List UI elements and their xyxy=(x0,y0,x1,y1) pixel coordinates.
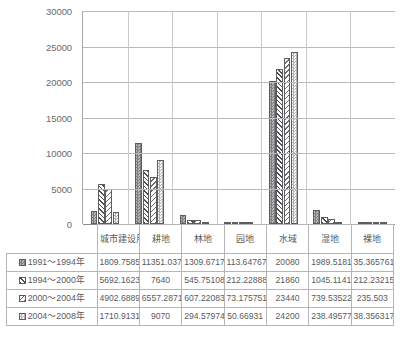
category-separator xyxy=(172,11,173,224)
bar xyxy=(105,189,112,224)
table-cell: 235.503 xyxy=(351,290,393,308)
category-separator xyxy=(128,11,129,224)
table-cell: 6557.2871 xyxy=(139,290,181,308)
table-cell: 739.53522 xyxy=(309,290,351,308)
table-cell: 294.57974 xyxy=(182,308,224,326)
legend-label: 1991～1994年 xyxy=(28,257,85,267)
table-cell: 4902.6889 xyxy=(97,290,139,308)
bar xyxy=(135,143,142,224)
table-cell: 212.23215 xyxy=(351,272,393,290)
legend-label: 1994～2000年 xyxy=(28,275,85,285)
gridline xyxy=(83,82,395,83)
data-table: 城市建设用地耕地林地园地水域湿地裸地 1991～1994年1809.758511… xyxy=(6,224,394,326)
table-cell: 24200 xyxy=(266,308,308,326)
table-column-header: 耕地 xyxy=(139,225,181,254)
y-axis-tick-label: 10000 xyxy=(46,148,72,159)
bar xyxy=(150,177,157,224)
bar xyxy=(180,215,187,224)
legend-label: 2004～2008年 xyxy=(28,311,85,321)
table-cell: 1045.1141 xyxy=(309,272,351,290)
y-axis-tick-label: 20000 xyxy=(46,77,72,88)
table-column-header: 水域 xyxy=(266,225,308,254)
table-row: 1994～2000年5692.16237640545.75108212.2288… xyxy=(7,272,394,290)
legend-swatch-icon xyxy=(19,277,26,284)
bar xyxy=(321,217,328,224)
gridline xyxy=(83,11,395,12)
plot-container: 050001000015000200002500030000 xyxy=(0,0,400,246)
table-cell: 1989.5181 xyxy=(309,254,351,272)
gridline xyxy=(83,153,395,154)
table-head: 城市建设用地耕地林地园地水域湿地裸地 xyxy=(7,225,394,254)
legend-entry: 1991～1994年 xyxy=(7,254,98,272)
bar xyxy=(291,52,298,224)
table-cell: 607.22083 xyxy=(182,290,224,308)
legend-swatch-icon xyxy=(19,259,26,266)
table-corner-cell xyxy=(7,225,98,254)
table-column-header: 裸地 xyxy=(351,225,393,254)
bar xyxy=(91,211,98,224)
table-cell: 50.66931 xyxy=(224,308,266,326)
legend-entry: 1994～2000年 xyxy=(7,272,98,290)
bar xyxy=(113,212,120,224)
table-cell: 1710.9131 xyxy=(97,308,139,326)
category-separator xyxy=(217,11,218,224)
table-cell: 1309.6717 xyxy=(182,254,224,272)
y-axis-tick-label: 15000 xyxy=(46,112,72,123)
table-cell: 238.49577 xyxy=(309,308,351,326)
plot-area xyxy=(82,11,394,224)
y-axis-tick-label: 5000 xyxy=(51,183,72,194)
bar xyxy=(157,160,164,224)
table-cell: 545.75108 xyxy=(182,272,224,290)
table-cell: 113.64767 xyxy=(224,254,266,272)
table-cell: 1809.7585 xyxy=(97,254,139,272)
table-row: 1991～1994年1809.758511351.0371309.6717113… xyxy=(7,254,394,272)
table-column-header: 园地 xyxy=(224,225,266,254)
category-separator xyxy=(261,11,262,224)
category-separator xyxy=(350,11,351,224)
y-axis-tick-label: 25000 xyxy=(46,41,72,52)
table-cell: 5692.1623 xyxy=(97,272,139,290)
bar xyxy=(98,184,105,224)
table-cell: 35.365761 xyxy=(351,254,393,272)
table-cell: 23440 xyxy=(266,290,308,308)
table-column-header: 城市建设用地 xyxy=(97,225,139,254)
gridline xyxy=(83,47,395,48)
category-separator xyxy=(306,11,307,224)
table-row: 2004～2008年1710.91319070294.5797450.66931… xyxy=(7,308,394,326)
y-axis: 050001000015000200002500030000 xyxy=(0,0,78,246)
bar xyxy=(276,69,283,224)
legend-label: 2000～2004年 xyxy=(28,293,85,303)
gridline xyxy=(83,118,395,119)
legend-swatch-icon xyxy=(19,313,26,320)
y-axis-tick-label: 30000 xyxy=(46,6,72,17)
gridline xyxy=(83,189,395,190)
table-header-row: 城市建设用地耕地林地园地水域湿地裸地 xyxy=(7,225,394,254)
table-row: 2000～2004年4902.68896557.2871607.2208373.… xyxy=(7,290,394,308)
table-cell: 38.356317 xyxy=(351,308,393,326)
table-cell: 7640 xyxy=(139,272,181,290)
table-cell: 11351.037 xyxy=(139,254,181,272)
table-cell: 212.22888 xyxy=(224,272,266,290)
table-column-header: 湿地 xyxy=(309,225,351,254)
bar xyxy=(313,210,320,224)
table-column-header: 林地 xyxy=(182,225,224,254)
legend-entry: 2004～2008年 xyxy=(7,308,98,326)
table-cell: 9070 xyxy=(139,308,181,326)
table-body: 1991～1994年1809.758511351.0371309.6717113… xyxy=(7,254,394,326)
legend-entry: 2000～2004年 xyxy=(7,290,98,308)
legend-swatch-icon xyxy=(19,295,26,302)
table-cell: 73.175751 xyxy=(224,290,266,308)
chart-figure: 050001000015000200002500030000 城市建设用地耕地林… xyxy=(0,0,400,344)
table-cell: 20080 xyxy=(266,254,308,272)
table-cell: 21860 xyxy=(266,272,308,290)
bar xyxy=(143,170,150,224)
